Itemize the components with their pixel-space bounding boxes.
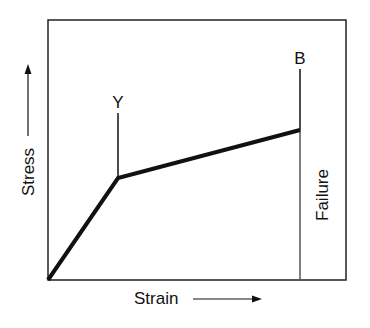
yield-point-label: Y [112, 93, 123, 112]
stress-strain-diagram: Y B Failure Stress Strain [0, 0, 370, 328]
x-axis-label: Strain [134, 289, 178, 308]
arrow-right-icon [252, 296, 262, 303]
failure-label: Failure [313, 169, 332, 221]
stress-strain-curve [48, 130, 300, 280]
break-point-label: B [294, 49, 305, 68]
y-axis-label: Stress [19, 148, 38, 196]
arrow-up-icon [25, 64, 32, 74]
